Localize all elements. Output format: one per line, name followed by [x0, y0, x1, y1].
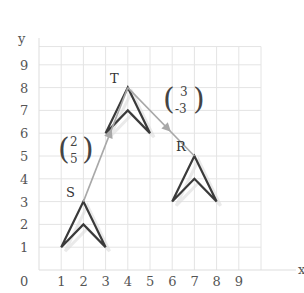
y-tick-label: 9	[20, 58, 28, 73]
x-tick-label: 9	[235, 274, 243, 289]
vector-2-top: 3	[180, 85, 188, 99]
y-tick-label: 2	[20, 217, 28, 232]
y-tick-label: 1	[20, 240, 28, 255]
x-tick-label: 8	[213, 274, 221, 289]
svg-text:): )	[82, 131, 94, 166]
label-r: R	[176, 139, 187, 154]
svg-text:(: (	[58, 131, 70, 166]
x-axis-label: x	[298, 262, 304, 277]
vector-2-bottom: -3	[175, 102, 187, 116]
x-tick-labels: 123456789	[57, 274, 243, 289]
y-tick-label: 4	[20, 172, 28, 187]
column-vector-3-neg3: ( 3 -3 )	[163, 81, 205, 116]
origin-label: 0	[20, 274, 28, 289]
vector-1-bottom: 5	[70, 152, 78, 166]
x-tick-label: 3	[102, 274, 110, 289]
y-tick-label: 7	[20, 103, 28, 118]
y-tick-label: 6	[20, 126, 28, 141]
label-s: S	[66, 185, 75, 200]
x-tick-label: 4	[124, 274, 132, 289]
svg-text:(: (	[163, 81, 175, 116]
y-tick-label: 8	[20, 81, 28, 96]
translation-diagram: x y 0 123456789 123456789 S T R ( 2 5 ) …	[0, 0, 304, 293]
x-tick-label: 1	[57, 274, 65, 289]
x-tick-label: 5	[146, 274, 154, 289]
x-tick-label: 7	[190, 274, 198, 289]
y-tick-label: 3	[20, 195, 28, 210]
label-t: T	[110, 71, 119, 86]
x-tick-label: 2	[79, 274, 87, 289]
vector-1-top: 2	[70, 135, 78, 149]
y-tick-label: 5	[20, 149, 28, 164]
y-tick-labels: 123456789	[20, 58, 28, 255]
x-tick-label: 6	[168, 274, 176, 289]
y-axis-label: y	[17, 31, 26, 46]
svg-text:): )	[193, 81, 205, 116]
column-vector-2-5: ( 2 5 )	[58, 131, 94, 166]
